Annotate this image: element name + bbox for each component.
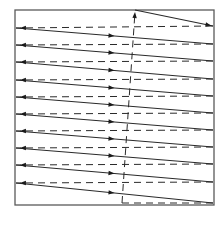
horizontal-retrace-line xyxy=(16,130,213,131)
horizontal-retrace-line xyxy=(16,79,213,80)
horizontal-retrace-line xyxy=(16,113,213,114)
retrace-arrow-icon xyxy=(20,43,26,47)
retrace-arrow-icon xyxy=(20,163,26,167)
retrace-arrow-icon xyxy=(20,60,26,64)
horizontal-retrace-line xyxy=(16,61,213,62)
retrace-arrow-icon xyxy=(20,26,26,30)
horizontal-retrace-line xyxy=(16,182,213,183)
horizontal-retrace-line xyxy=(16,96,213,97)
retrace-arrow-icon xyxy=(20,146,26,150)
retrace-arrow-icon xyxy=(20,181,26,185)
horizontal-retrace-line xyxy=(16,26,213,28)
vertical-retrace-arrow-icon xyxy=(132,12,136,18)
scan-lines xyxy=(16,10,213,203)
horizontal-retrace-line xyxy=(16,147,213,148)
horizontal-retrace-line xyxy=(16,44,213,45)
retrace-arrow-icon xyxy=(20,129,26,133)
scan-line xyxy=(135,10,213,26)
retrace-arrow-icon xyxy=(20,112,26,116)
horizontal-retrace-line xyxy=(16,164,213,165)
raster-scan-diagram xyxy=(0,0,224,227)
retrace-arrow-icon xyxy=(20,95,26,99)
scan-frame xyxy=(15,10,214,205)
retrace-arrow-icon xyxy=(20,78,26,82)
